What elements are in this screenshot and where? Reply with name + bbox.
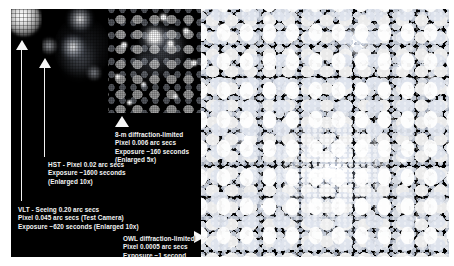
astronomical-composite-image: 8-m diffraction-limited Pixel 0.006 arc … (11, 9, 449, 257)
caption-line: Pixel 0.0005 arc secs (123, 243, 195, 251)
pixelation-grid (108, 9, 201, 113)
vlt-starfield (42, 9, 108, 104)
arrow-to-hst-panel (44, 67, 45, 157)
caption-line: (Enlarged 5x) (115, 156, 189, 164)
caption-line: Exposure ~160 seconds (115, 148, 189, 156)
arrow-to-vlt-panel (21, 49, 22, 201)
owl-cluster-core-stars (275, 121, 393, 239)
caption-line: (Enlarged 10x) (48, 178, 126, 186)
triangle-to-eight-metre-panel (115, 116, 129, 127)
caption-line: Pixel 0.045 arc secs (Test Camera) (18, 214, 139, 222)
triangle-to-owl-panel (194, 231, 205, 243)
pixelation-grid (11, 9, 42, 43)
vlt-panel (42, 9, 108, 104)
hst-caption: HST - Pixel 0.02 arc secs Exposure ~1600… (48, 161, 126, 186)
telescope-comparison-figure: 8-m diffraction-limited Pixel 0.006 arc … (0, 0, 454, 266)
pixelation-grid (42, 9, 108, 104)
hst-panel (11, 9, 42, 43)
caption-line: Exposure ~620 seconds (Enlarged 10x) (18, 223, 139, 231)
owl-starfield (201, 9, 449, 257)
caption-line: Exposure ~1600 seconds (48, 169, 126, 177)
vlt-caption: VLT - Seeing 0.20 arc secs Pixel 0.045 a… (18, 206, 139, 231)
eight-metre-starfield (108, 9, 201, 113)
owl-panel (201, 9, 449, 257)
eight-metre-panel (108, 9, 201, 113)
caption-line: Exposure ~1 second (123, 252, 195, 257)
owl-caption: OWL diffraction-limited Pixel 0.0005 arc… (123, 235, 195, 257)
caption-line: Pixel 0.006 arc secs (115, 139, 189, 147)
eight-metre-caption: 8-m diffraction-limited Pixel 0.006 arc … (115, 131, 189, 164)
